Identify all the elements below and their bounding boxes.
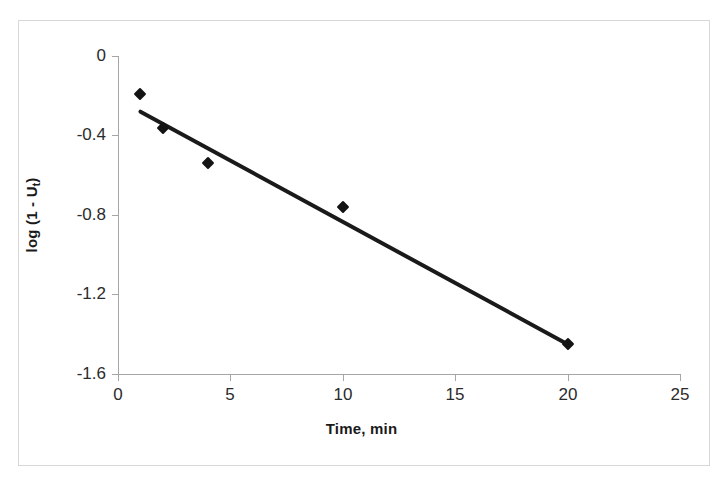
y-axis-title: log (1 - Ut): [23, 178, 40, 253]
x-tick-label-3: 15: [435, 386, 475, 403]
plot-area: [118, 56, 680, 374]
y-tick-label-1: -0.4: [58, 126, 106, 144]
trendline: [118, 56, 680, 374]
x-axis-line: [118, 374, 681, 375]
y-tick-label-0: 0: [58, 47, 106, 65]
x-tick-label-1: 5: [210, 386, 250, 403]
x-tick-mark: [230, 375, 231, 381]
y-axis-title-holder: log (1 - Ut): [18, 56, 44, 374]
x-tick-mark: [568, 375, 569, 381]
x-tick-mark: [455, 375, 456, 381]
y-tick-text: -1.6: [60, 365, 106, 382]
y-tick-text: 0: [60, 47, 106, 64]
x-tick-mark: [343, 375, 344, 381]
y-tick-label-2: -0.8: [58, 206, 106, 224]
x-tick-label-4: 20: [548, 386, 588, 403]
x-axis-title: Time, min: [0, 420, 723, 437]
chart-screenshot: 0 -0.4 -0.8 -1.2 -1.6 0 5 10 15 20 25: [0, 0, 723, 489]
x-tick-mark: [680, 375, 681, 381]
x-tick-label-2: 10: [323, 386, 363, 403]
y-tick-label-4: -1.6: [58, 365, 106, 383]
y-axis-title-base: log (1 - U: [23, 186, 40, 252]
y-axis-title-subscript: t: [31, 183, 42, 187]
x-tick-label-5: 25: [660, 386, 700, 403]
y-tick-label-3: -1.2: [58, 285, 106, 303]
x-tick-label-0: 0: [98, 386, 138, 403]
y-tick-text: -1.2: [60, 285, 106, 302]
y-tick-text: -0.8: [60, 206, 106, 223]
x-tick-mark: [118, 375, 119, 381]
y-tick-text: -0.4: [60, 126, 106, 143]
